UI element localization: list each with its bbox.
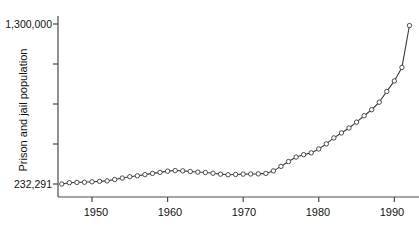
data-point-1981 — [324, 142, 328, 146]
data-point-1950 — [90, 180, 94, 184]
data-point-1982 — [332, 136, 336, 140]
plot-area — [0, 0, 419, 228]
data-point-1958 — [150, 171, 154, 175]
data-point-1976 — [286, 159, 290, 163]
data-point-1986 — [362, 114, 366, 118]
y-axis-ticks — [53, 24, 58, 184]
data-point-1955 — [128, 175, 132, 179]
data-line-prison-population — [62, 26, 410, 185]
data-point-1970 — [241, 172, 245, 176]
data-point-1985 — [354, 120, 358, 124]
data-point-1983 — [339, 131, 343, 135]
data-point-1949 — [82, 180, 86, 184]
data-point-1975 — [279, 164, 283, 168]
data-point-1947 — [67, 180, 71, 184]
data-point-1948 — [75, 180, 79, 184]
data-point-1956 — [135, 174, 139, 178]
data-point-1974 — [271, 169, 275, 173]
data-point-1978 — [301, 152, 305, 156]
data-point-1990 — [392, 79, 396, 83]
data-point-1962 — [181, 169, 185, 173]
data-point-1980 — [317, 147, 321, 151]
data-point-1967 — [218, 172, 222, 176]
data-point-1988 — [377, 100, 381, 104]
data-point-1987 — [369, 108, 373, 112]
data-point-1977 — [294, 155, 298, 159]
data-point-1946 — [60, 182, 64, 186]
data-point-1991 — [400, 65, 404, 69]
data-point-1959 — [158, 170, 162, 174]
data-point-1984 — [347, 126, 351, 130]
data-point-1965 — [203, 170, 207, 174]
data-point-1953 — [112, 177, 116, 181]
data-point-1952 — [105, 179, 109, 183]
chart-figure: Prison and jail population 1,300,000 232… — [0, 0, 419, 228]
data-point-1989 — [385, 89, 389, 93]
data-point-1972 — [256, 172, 260, 176]
data-point-1969 — [233, 172, 237, 176]
data-point-1957 — [143, 172, 147, 176]
data-point-1966 — [211, 171, 215, 175]
data-point-1954 — [120, 176, 124, 180]
data-point-1973 — [264, 171, 268, 175]
data-point-1964 — [196, 170, 200, 174]
data-point-1971 — [249, 172, 253, 176]
data-point-1963 — [188, 169, 192, 173]
data-point-1951 — [97, 179, 101, 183]
data-point-1968 — [226, 173, 230, 177]
data-point-1961 — [173, 168, 177, 172]
data-point-1979 — [309, 151, 313, 155]
data-point-1960 — [165, 169, 169, 173]
x-axis-ticks — [92, 197, 394, 202]
data-point-1992 — [407, 23, 411, 27]
axis-lines — [58, 16, 419, 197]
data-point-markers — [60, 23, 412, 186]
